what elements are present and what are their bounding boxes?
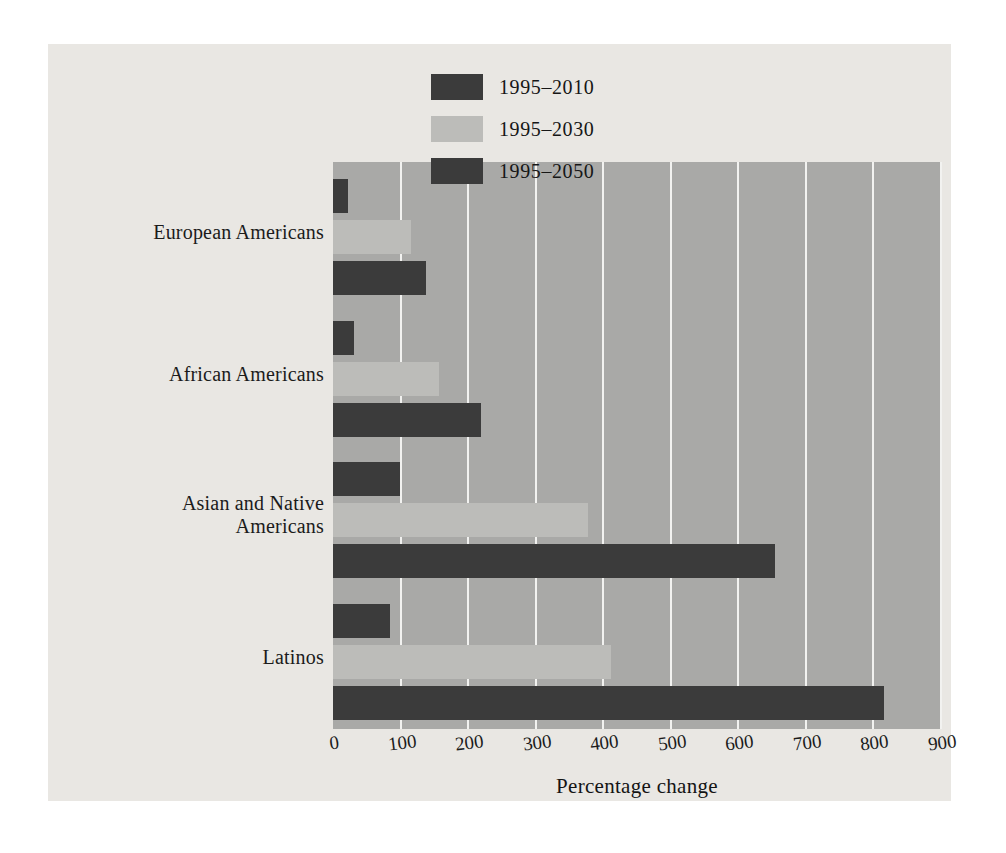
gridline [805, 162, 807, 729]
gridline [737, 162, 739, 729]
category-label: European Americans [94, 221, 324, 244]
bar [333, 362, 439, 396]
bar [333, 179, 348, 213]
x-tick-label: 700 [792, 730, 823, 755]
bar [333, 220, 411, 254]
figure: European AmericansAfrican AmericansAsian… [0, 0, 1006, 853]
bar [333, 604, 390, 638]
legend-swatch [431, 74, 483, 100]
legend-item: 1995–2010 [431, 66, 661, 108]
x-tick-label: 600 [724, 730, 755, 755]
legend-item: 1995–2030 [431, 108, 661, 150]
legend: 1995–20101995–20301995–2050 [431, 66, 661, 192]
x-tick-label: 400 [589, 730, 620, 755]
x-tick-label: 0 [328, 731, 340, 754]
x-tick-label: 100 [386, 730, 417, 755]
legend-item: 1995–2050 [431, 150, 661, 192]
gridline [602, 162, 604, 729]
x-tick-label: 200 [454, 730, 485, 755]
bar [333, 503, 588, 537]
category-label: Latinos [94, 646, 324, 669]
x-axis-ticks: 0100200300400500600700800900 [333, 732, 941, 772]
legend-swatch [431, 116, 483, 142]
bar [333, 261, 426, 295]
chart-panel: European AmericansAfrican AmericansAsian… [48, 44, 951, 801]
bar [333, 645, 611, 679]
x-tick-label: 800 [859, 730, 890, 755]
bar [333, 403, 481, 437]
x-tick-label: 900 [927, 730, 958, 755]
gridline [670, 162, 672, 729]
bar [333, 544, 775, 578]
x-axis-label: Percentage change [333, 774, 941, 799]
legend-label: 1995–2050 [499, 160, 594, 183]
category-axis-labels: European AmericansAfrican AmericansAsian… [88, 162, 324, 729]
bar [333, 686, 884, 720]
legend-label: 1995–2030 [499, 118, 594, 141]
gridline [872, 162, 874, 729]
bar [333, 462, 400, 496]
bar [333, 321, 354, 355]
plot-area [333, 162, 941, 729]
gridline [467, 162, 469, 729]
legend-swatch [431, 158, 483, 184]
category-label: African Americans [94, 363, 324, 386]
legend-label: 1995–2010 [499, 76, 594, 99]
x-tick-label: 500 [657, 730, 688, 755]
category-label: Asian and NativeAmericans [94, 492, 324, 538]
gridline [940, 162, 942, 729]
gridline [535, 162, 537, 729]
x-tick-label: 300 [522, 730, 553, 755]
